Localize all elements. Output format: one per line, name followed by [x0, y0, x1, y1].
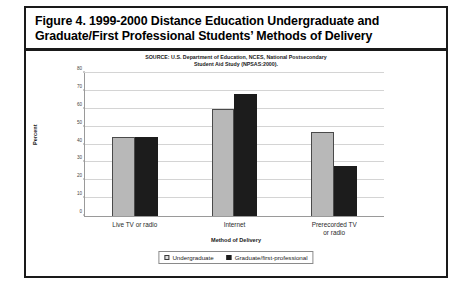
- source-note-line-1: SOURCE: U.S. Department of Education, NC…: [26, 54, 446, 61]
- y-axis-tick-label: 30: [77, 155, 82, 160]
- y-axis-tick-label: 60: [77, 101, 82, 106]
- legend-swatch-icon: [227, 255, 232, 260]
- bar-graduate-first-professional[interactable]: [234, 94, 257, 216]
- source-note-line-2: Student Aid Study (NPSAS:2000).: [26, 61, 446, 68]
- bar-graduate-first-professional[interactable]: [334, 166, 357, 216]
- chart-legend: UndergraduateGraduate/first-professional: [158, 251, 313, 264]
- chart-plot-area: 01020304050607080 Live TV or radioIntern…: [84, 73, 384, 217]
- figure-title-line-1: Figure 4. 1999-2000 Distance Education U…: [35, 14, 437, 29]
- bar-group: Live TV or radio: [112, 73, 158, 216]
- x-axis-category-label: Internet: [212, 221, 258, 229]
- figure-title-line-2: Graduate/First Professional Students’ Me…: [35, 29, 437, 44]
- source-note: SOURCE: U.S. Department of Education, NC…: [26, 54, 446, 68]
- y-axis-tick-label: 50: [77, 119, 82, 124]
- y-axis-tick-label: 40: [77, 137, 82, 142]
- legend-item[interactable]: Undergraduate: [164, 254, 213, 261]
- x-axis-category-label: Prerecorded TV or radio: [311, 221, 357, 237]
- figure-container: Figure 4. 1999-2000 Distance Education U…: [24, 6, 448, 278]
- y-axis-title: Percent: [32, 124, 38, 145]
- legend-label: Graduate/first-professional: [235, 254, 308, 261]
- figure-title-block: Figure 4. 1999-2000 Distance Education U…: [26, 8, 446, 51]
- y-axis-tick-label: 70: [77, 83, 82, 88]
- y-axis-tick-label: 10: [77, 191, 82, 196]
- bar-group: Prerecorded TV or radio: [311, 73, 357, 216]
- bar-graduate-first-professional[interactable]: [135, 137, 158, 216]
- legend-label: Undergraduate: [172, 254, 213, 261]
- bar-undergraduate[interactable]: [212, 109, 235, 216]
- bar-undergraduate[interactable]: [311, 132, 334, 216]
- x-axis-category-label: Live TV or radio: [112, 221, 158, 229]
- bar-group: Internet: [212, 73, 258, 216]
- y-axis-tick-label: 80: [77, 66, 82, 71]
- bar-undergraduate[interactable]: [112, 137, 135, 216]
- y-axis-tick-label: 20: [77, 173, 82, 178]
- bars-layer: Live TV or radioInternetPrerecorded TV o…: [85, 73, 384, 216]
- legend-swatch-icon: [164, 255, 169, 260]
- x-axis-title: Method of Delivery: [26, 237, 446, 243]
- legend-item[interactable]: Graduate/first-professional: [227, 254, 308, 261]
- plot-panel: SOURCE: U.S. Department of Education, NC…: [26, 51, 446, 275]
- y-axis-tick-label: 0: [79, 209, 82, 214]
